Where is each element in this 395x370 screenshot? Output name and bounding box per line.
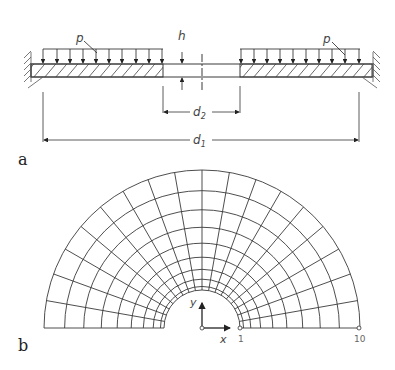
node-1 — [238, 326, 242, 330]
diagram-svg: p p h d2 d1 a y x 1 10 b — [0, 0, 395, 370]
plate-cross-section — [31, 54, 373, 90]
y-axis-label: y — [189, 296, 197, 309]
node-1-label: 1 — [238, 334, 244, 344]
x-axis-label: x — [219, 333, 227, 346]
load-label-left: p — [75, 31, 84, 45]
left-distributed-load — [43, 41, 163, 63]
panel-label-b: b — [18, 336, 28, 355]
outer-diameter-label: d1 — [193, 133, 206, 149]
thickness-label: h — [178, 29, 186, 43]
inner-diameter-dimension — [163, 86, 240, 113]
load-label-right: p — [322, 32, 331, 46]
node-10 — [357, 326, 361, 330]
figure-canvas: p p h d2 d1 a y x 1 10 b — [0, 0, 395, 370]
right-distributed-load — [240, 42, 360, 63]
inner-diameter-label: d2 — [193, 105, 206, 121]
origin-node — [200, 326, 204, 330]
coordinate-axes — [202, 303, 230, 328]
panel-label-a: a — [18, 150, 28, 169]
node-10-label: 10 — [354, 334, 366, 344]
